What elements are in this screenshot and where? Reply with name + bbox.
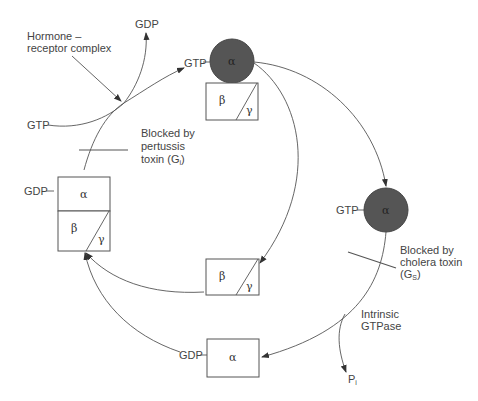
cholera-block-bar bbox=[348, 252, 396, 268]
free-beta-gamma-node: β γ bbox=[206, 259, 259, 295]
gdp-released-label: GDP bbox=[135, 18, 159, 30]
gtp-entering-label: GTP bbox=[27, 119, 50, 131]
svg-text:Blocked by: Blocked by bbox=[141, 127, 195, 139]
active-alpha-top-node: GTP α β γ bbox=[184, 39, 258, 120]
alpha-reassociation-arc bbox=[85, 253, 180, 352]
svg-text:Blocked by: Blocked by bbox=[400, 244, 454, 256]
intrinsic-gtpase-label: Intrinsic GTPase bbox=[361, 308, 401, 332]
beta-label: β bbox=[71, 222, 77, 235]
pertussis-toxin-label: Blocked by pertussis toxin (Gi) bbox=[141, 127, 195, 166]
alpha-label: α bbox=[228, 55, 236, 68]
g-protein-cycle-diagram: Hormone – receptor complex GDP GTP Block… bbox=[0, 0, 478, 401]
svg-text:GTPase: GTPase bbox=[361, 320, 401, 332]
svg-text:cholera toxin: cholera toxin bbox=[400, 256, 462, 268]
svg-text:receptor complex: receptor complex bbox=[27, 42, 112, 54]
gamma-label: γ bbox=[246, 280, 253, 293]
beta-label: β bbox=[219, 270, 225, 283]
svg-text:Intrinsic: Intrinsic bbox=[361, 308, 399, 320]
beta-gamma-reassociation-arc bbox=[86, 253, 204, 292]
pi-label: Pi bbox=[348, 373, 357, 386]
svg-text:Hormone –: Hormone – bbox=[27, 30, 82, 42]
gdp-bottom-label: GDP bbox=[179, 349, 203, 361]
gamma-label: γ bbox=[98, 233, 105, 246]
svg-text:(GS): (GS) bbox=[400, 268, 421, 281]
alpha-label: α bbox=[80, 188, 88, 201]
alpha-dissociation-arc bbox=[254, 62, 386, 186]
beta-label: β bbox=[219, 94, 225, 107]
gamma-label: γ bbox=[246, 104, 253, 117]
pi-release-arrow bbox=[339, 314, 346, 372]
inactive-alpha-bottom-node: GDP α bbox=[179, 339, 259, 377]
alpha-label: α bbox=[229, 351, 237, 364]
svg-text:pertussis: pertussis bbox=[141, 140, 186, 152]
gtp-right-label: GTP bbox=[336, 204, 359, 216]
gdp-left-label: GDP bbox=[24, 185, 48, 197]
svg-text:toxin (Gi): toxin (Gi) bbox=[141, 153, 185, 166]
alpha-label: α bbox=[382, 204, 390, 217]
inactive-heterotrimer-node: GDP α β γ bbox=[24, 177, 110, 251]
gtp-enter-arrow bbox=[48, 103, 124, 126]
cholera-toxin-label: Blocked by cholera toxin (GS) bbox=[400, 244, 462, 281]
gtp-top-label: GTP bbox=[184, 57, 207, 69]
gdp-release-arrow bbox=[124, 33, 146, 103]
active-alpha-right-node: GTP α bbox=[336, 188, 408, 232]
gtp-hydrolysis-arc bbox=[262, 232, 386, 357]
beta-gamma-release-arc bbox=[254, 63, 298, 263]
hormone-pointer-arrow bbox=[72, 56, 121, 101]
hormone-receptor-label: Hormone – receptor complex bbox=[27, 30, 112, 54]
